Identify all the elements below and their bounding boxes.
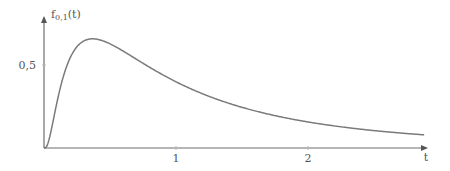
lognormal-density-chart: 1 2 t 0,5 f0,1(t) [0, 0, 450, 171]
y-label-arg: (t) [68, 8, 81, 21]
y-axis-arrow-icon [41, 16, 47, 23]
y-label-sub: 0,1 [55, 13, 68, 22]
x-axis-label: t [424, 151, 429, 164]
density-curve [44, 39, 424, 148]
x-tick-label-1: 1 [173, 152, 180, 165]
y-axis-label: f0,1(t) [51, 8, 81, 22]
y-tick-label-05: 0,5 [19, 59, 37, 72]
x-tick-label-2: 2 [305, 152, 312, 165]
